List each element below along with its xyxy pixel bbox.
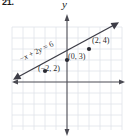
point-label-minus2-2: (−2, 2) — [38, 64, 60, 73]
y-axis-arrow-down — [65, 129, 70, 136]
x-axis-arrow-left — [12, 80, 18, 85]
y-axis — [65, 14, 70, 136]
point-marker-2-4 — [87, 47, 91, 51]
x-axis — [12, 80, 125, 85]
figure-container: 21. y — [0, 0, 131, 139]
coordinate-plane — [0, 0, 131, 139]
point-label-2-4: (2, 4) — [92, 36, 109, 45]
point-label-0-3: (0, 3) — [68, 52, 85, 61]
y-axis-arrow-up — [65, 14, 70, 21]
